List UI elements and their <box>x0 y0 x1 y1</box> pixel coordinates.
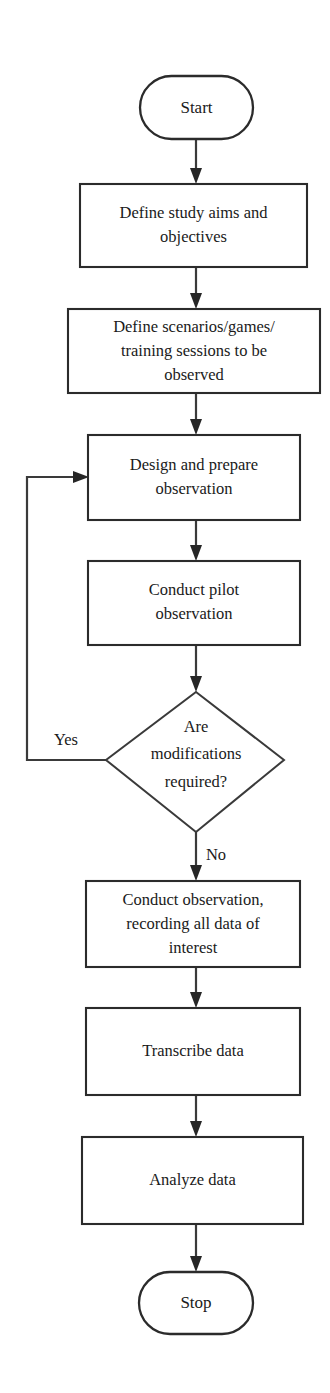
node-design-prepare[interactable]: Design and prepare observation <box>88 435 300 520</box>
modifications-decision-label-line-1: Are <box>184 717 209 736</box>
connector-conduct-observation-to-transcribe <box>190 967 202 1008</box>
stop-label: Stop <box>180 1293 211 1312</box>
connector-decision-no-to-conduct-observation <box>190 832 202 881</box>
connector-transcribe-to-analyze <box>190 1095 202 1137</box>
node-conduct-observation[interactable]: Conduct observation, recording all data … <box>86 881 300 967</box>
conduct-pilot-label-line-2: observation <box>156 604 233 623</box>
start-label: Start <box>180 98 212 117</box>
connector-define-aims-to-define-scenarios <box>190 267 202 309</box>
define-scenarios-label-line-3: observed <box>164 365 224 384</box>
edge-label-no: No <box>206 845 226 864</box>
connector-conduct-pilot-to-decision <box>190 645 202 692</box>
node-define-aims[interactable]: Define study aims and objectives <box>80 184 307 267</box>
node-define-scenarios[interactable]: Define scenarios/games/ training session… <box>68 309 320 393</box>
connector-start-to-define-aims <box>190 139 202 184</box>
define-scenarios-label-line-2: training sessions to be <box>121 341 267 360</box>
conduct-observation-label-line-3: interest <box>169 938 218 957</box>
conduct-observation-label-line-2: recording all data of <box>126 914 260 933</box>
flowchart-canvas: Start Define study aims and objectives D… <box>0 0 330 1393</box>
node-transcribe[interactable]: Transcribe data <box>86 1008 300 1095</box>
modifications-decision-label-line-2: modifications <box>151 744 242 763</box>
connector-define-scenarios-to-design-prepare <box>190 393 202 435</box>
design-prepare-label-line-1: Design and prepare <box>130 455 258 474</box>
edge-label-yes: Yes <box>54 730 78 749</box>
connector-design-prepare-to-conduct-pilot <box>190 520 202 561</box>
analyze-label: Analyze data <box>149 1170 236 1189</box>
flowchart-svg: Start Define study aims and objectives D… <box>0 0 330 1393</box>
node-analyze[interactable]: Analyze data <box>82 1137 303 1224</box>
define-aims-label-line-2: objectives <box>160 227 227 246</box>
conduct-pilot-label-line-1: Conduct pilot <box>149 580 240 599</box>
define-scenarios-label-line-1: Define scenarios/games/ <box>113 317 275 336</box>
node-stop[interactable]: Stop <box>139 1272 253 1334</box>
conduct-observation-label-line-1: Conduct observation, <box>122 890 263 909</box>
node-modifications-decision[interactable]: Are modifications required? <box>106 692 284 832</box>
node-conduct-pilot[interactable]: Conduct pilot observation <box>88 561 300 645</box>
design-prepare-box-shape <box>88 435 300 520</box>
define-aims-box-shape <box>80 184 307 267</box>
modifications-decision-label-line-3: required? <box>165 772 227 791</box>
design-prepare-label-line-2: observation <box>156 479 233 498</box>
define-aims-label-line-1: Define study aims and <box>119 203 268 222</box>
node-start[interactable]: Start <box>140 76 253 139</box>
transcribe-label: Transcribe data <box>142 1041 244 1060</box>
connector-analyze-to-stop <box>190 1224 202 1272</box>
